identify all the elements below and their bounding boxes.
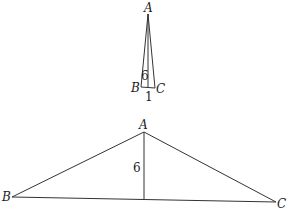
wide-triangle [12,132,276,202]
narrow-base-label: 1 [145,90,153,104]
wide-height-label: 6 [133,161,141,175]
triangle-diagram: A B C 6 1 A B C 6 [0,0,289,210]
wide-vertex-b: B [1,190,11,204]
wide-vertex-a: A [138,118,148,132]
narrow-vertex-c: C [156,82,165,96]
narrow-height-label: 6 [141,69,149,83]
wide-vertex-c: C [277,197,286,210]
narrow-vertex-a: A [143,1,153,15]
narrow-vertex-b: B [130,81,140,95]
